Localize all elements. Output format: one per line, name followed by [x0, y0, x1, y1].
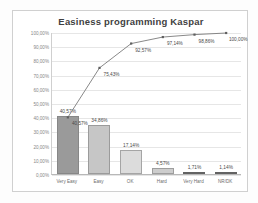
bar[interactable] [120, 150, 142, 174]
bar-slot: 40,57% [52, 33, 84, 174]
bar-value-label: 40,57% [60, 109, 76, 114]
bar[interactable] [183, 172, 205, 174]
bar-slot: 1,14% [210, 33, 242, 174]
y-axis-tick-label: 70,00% [33, 73, 49, 78]
y-axis-tick-label: 90,00% [33, 45, 49, 50]
bar-slot: 4,57% [147, 33, 179, 174]
x-axis-tick-label: NR/DK [218, 179, 232, 184]
y-axis-tick-label: 40,00% [33, 116, 49, 121]
y-axis-tick-label: 80,00% [33, 59, 49, 64]
x-axis-tick-label: Very Hard [183, 179, 203, 184]
line-value-label: 75,43% [104, 71, 120, 76]
y-axis-tick-label: 100,00% [31, 31, 49, 36]
x-axis-tick-label: Hard [157, 179, 167, 184]
bar-slot: 1,71% [179, 33, 211, 174]
chart-frame: Easiness programming Kaspar 0,00%10,00%2… [12, 10, 248, 192]
line-value-label: 98,86% [199, 38, 215, 43]
line-value-label: 97,14% [167, 41, 183, 46]
bar[interactable] [88, 125, 110, 175]
y-axis-tick-label: 20,00% [33, 144, 49, 149]
y-axis-tick-label: 10,00% [33, 158, 49, 163]
chart-title: Easiness programming Kaspar [13, 16, 249, 27]
bar-value-label: 4,57% [156, 161, 170, 166]
gridline [52, 175, 241, 176]
bar-slot: 34,86% [84, 33, 116, 174]
line-value-label: 92,57% [135, 47, 151, 52]
y-axis-tick-label: 60,00% [33, 87, 49, 92]
bar-value-label: 17,14% [123, 143, 139, 148]
bar-value-label: 34,86% [91, 118, 107, 123]
x-axis-tick-label: OK [127, 179, 134, 184]
bar-value-label: 1,71% [188, 165, 202, 170]
line-value-label: 100,00% [229, 37, 248, 42]
plot-area: 0,00%10,00%20,00%30,00%40,00%50,00%60,00… [51, 33, 241, 175]
bar[interactable] [215, 172, 237, 174]
bar-series: 40,57%34,86%17,14%4,57%1,71%1,14% [52, 33, 241, 174]
line-value-label: 40,57% [72, 121, 88, 126]
x-axis-labels: Very EasyEasyOKHardVery HardNR/DK [51, 177, 241, 191]
bar-value-label: 1,14% [219, 165, 233, 170]
bar-slot: 17,14% [115, 33, 147, 174]
y-axis-tick-label: 30,00% [33, 130, 49, 135]
x-axis-tick-label: Easy [93, 179, 103, 184]
y-axis-tick-label: 50,00% [33, 102, 49, 107]
x-axis-tick-label: Very Easy [56, 179, 77, 184]
chart-container: Easiness programming Kaspar 0,00%10,00%2… [0, 0, 258, 203]
y-axis-tick-label: 0,00% [36, 173, 49, 178]
bar[interactable] [152, 168, 174, 174]
